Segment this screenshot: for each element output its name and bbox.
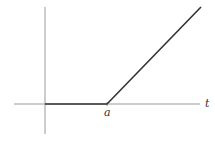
kink-label: a bbox=[104, 106, 111, 119]
x-axis-label: t bbox=[205, 97, 210, 110]
ramp-curve bbox=[45, 7, 201, 104]
ramp-function-diagram: a t bbox=[0, 0, 215, 141]
